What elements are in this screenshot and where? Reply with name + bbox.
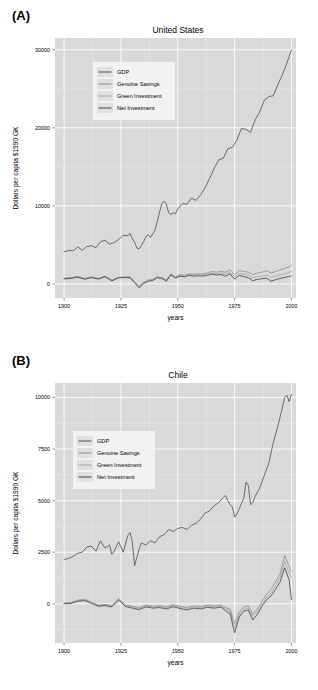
legend-label-genuine-savings: Genuine Savings <box>97 450 140 456</box>
xtick-label: 2000 <box>285 648 297 654</box>
xtick-label: 2000 <box>285 303 297 309</box>
ytick-label: 7500 <box>38 446 50 452</box>
legend-label-net-investment: Net Investment <box>97 474 135 480</box>
panel-label-b: (B) <box>12 353 30 368</box>
xtick-label: 1900 <box>58 648 70 654</box>
ytick-label: 20000 <box>35 125 50 131</box>
legend-label-green-investment: Green Investment <box>117 93 162 99</box>
ytick-label: 10000 <box>35 394 50 400</box>
ytick-label: 30000 <box>35 47 50 53</box>
x-axis-title: years <box>167 314 184 322</box>
xtick-label: 1975 <box>229 303 241 309</box>
chart-panel-chile: (B) Chile 190019251950197520000250050007… <box>0 345 318 690</box>
plot-background <box>55 38 296 298</box>
xtick-label: 1900 <box>58 303 70 309</box>
xtick-label: 1925 <box>115 648 127 654</box>
xtick-label: 1925 <box>115 303 127 309</box>
xtick-label: 1950 <box>172 648 184 654</box>
ytick-label: 5000 <box>38 498 50 504</box>
ytick-label: 0 <box>47 281 50 287</box>
panel-label-a: (A) <box>12 8 30 23</box>
figure-container: (A) United States 1900192519501975200001… <box>0 0 318 690</box>
x-axis-title: years <box>167 659 184 667</box>
chart-svg-united-states: 190019251950197520000100002000030000year… <box>0 30 318 345</box>
legend-label-green-investment: Green Investment <box>97 462 142 468</box>
ytick-label: 2500 <box>38 549 50 555</box>
ytick-label: 10000 <box>35 203 50 209</box>
legend-label-genuine-savings: Genuine Savings <box>117 81 160 87</box>
legend-label-gdp: GDP <box>117 69 129 75</box>
legend-label-gdp: GDP <box>97 438 109 444</box>
xtick-label: 1950 <box>172 303 184 309</box>
chart-svg-chile: 19001925195019752000025005000750010000ye… <box>0 375 318 690</box>
ytick-label: 0 <box>47 601 50 607</box>
xtick-label: 1975 <box>229 648 241 654</box>
legend-label-net-investment: Net Investment <box>117 105 155 111</box>
chart-panel-united-states: (A) United States 1900192519501975200001… <box>0 0 318 345</box>
y-axis-title: Dollars per capita $1990 GK <box>12 126 20 209</box>
y-axis-title: Dollars per capita $1990 GK <box>12 471 20 554</box>
